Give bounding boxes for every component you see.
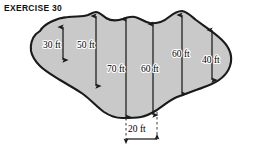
- label-40ft: 40 ft: [202, 55, 220, 65]
- label-60ft-a: 60 ft: [141, 64, 159, 74]
- label-50ft: 50 ft: [77, 40, 95, 50]
- exercise-title: EXERCISE 30: [4, 3, 62, 13]
- exercise-figure: EXERCISE 30 30 ft 50 ft: [0, 0, 254, 150]
- label-70ft: 70 ft: [107, 64, 125, 74]
- label-60ft-b: 60 ft: [172, 49, 190, 59]
- figure-canvas: 30 ft 50 ft 70 ft 60 ft 60 ft 40 ft 20 f…: [0, 0, 254, 150]
- label-30ft: 30 ft: [43, 40, 61, 50]
- label-20ft: 20 ft: [128, 124, 146, 134]
